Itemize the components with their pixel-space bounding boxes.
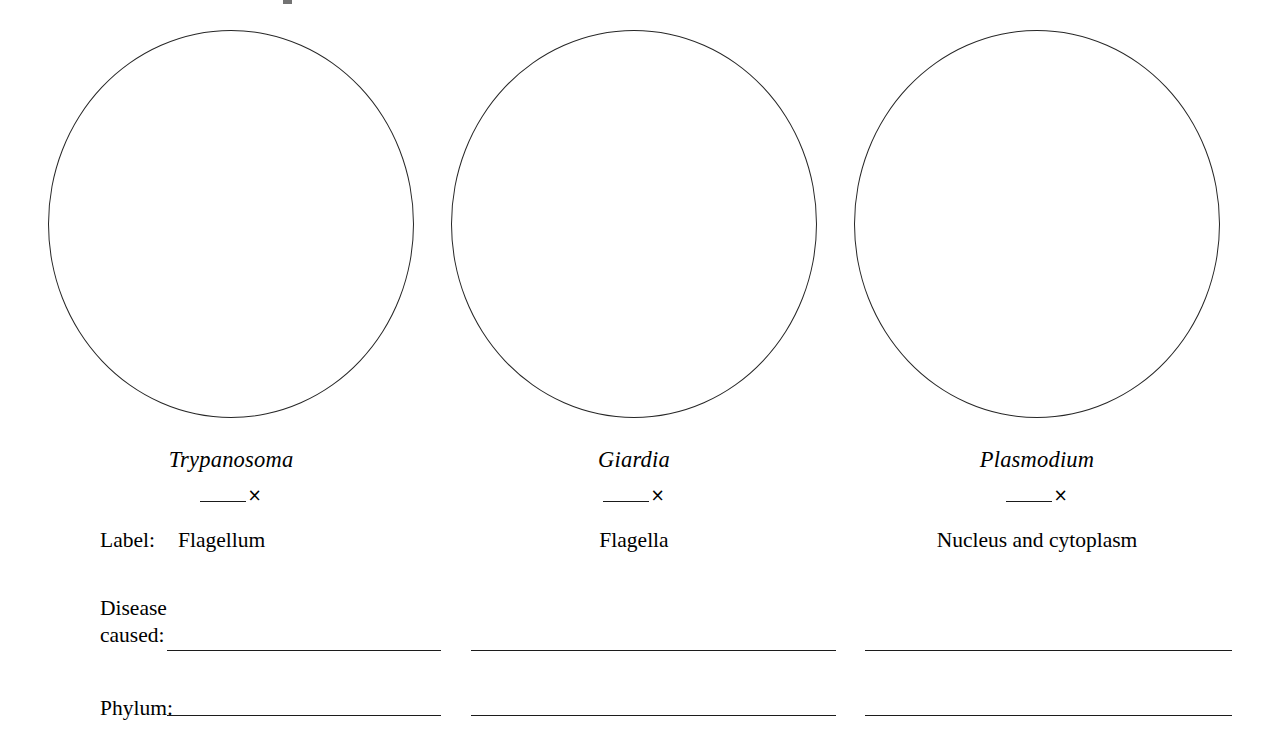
label-prompt: Label: xyxy=(100,530,155,552)
drawing-circle[interactable] xyxy=(854,30,1220,418)
magnification-blank-rule[interactable] xyxy=(603,501,649,502)
disease-prompt-line-2: caused: xyxy=(100,622,167,649)
genus-name: Trypanosoma xyxy=(26,449,436,472)
structure-label: Flagellum xyxy=(178,530,265,552)
disease-caused-answer-blank[interactable] xyxy=(865,650,1232,651)
genus-name: Giardia xyxy=(429,449,839,472)
specimen-column-plasmodium: Plasmodium × Nucleus and cytoplasm xyxy=(832,0,1242,750)
magnification-blank-rule[interactable] xyxy=(200,501,246,502)
magnification-blank-rule[interactable] xyxy=(1006,501,1052,502)
drawing-circle[interactable] xyxy=(48,30,414,418)
phylum-answer-blank[interactable] xyxy=(167,715,441,716)
multiplication-sign-icon: × xyxy=(650,487,664,504)
magnification-field[interactable]: × xyxy=(26,487,436,504)
worksheet-page: Trypanosoma × Label: Flagellum Disease c… xyxy=(0,0,1267,750)
disease-caused-answer-blank[interactable] xyxy=(167,650,441,651)
specimen-column-giardia: Giardia × Flagella xyxy=(429,0,839,750)
genus-name: Plasmodium xyxy=(832,449,1242,472)
phylum-prompt: Phylum: xyxy=(100,695,173,722)
magnification-field[interactable]: × xyxy=(832,487,1242,504)
structure-label: Nucleus and cytoplasm xyxy=(832,530,1242,552)
structure-label: Flagella xyxy=(429,530,839,552)
phylum-answer-blank[interactable] xyxy=(471,715,836,716)
disease-caused-prompt: Disease caused: xyxy=(100,595,167,649)
specimen-column-trypanosoma: Trypanosoma × Label: Flagellum Disease c… xyxy=(26,0,436,750)
drawing-circle[interactable] xyxy=(451,30,817,418)
multiplication-sign-icon: × xyxy=(1053,487,1067,504)
disease-prompt-line-1: Disease xyxy=(100,595,167,622)
phylum-answer-blank[interactable] xyxy=(865,715,1232,716)
multiplication-sign-icon: × xyxy=(247,487,261,504)
magnification-field[interactable]: × xyxy=(429,487,839,504)
disease-caused-answer-blank[interactable] xyxy=(471,650,836,651)
